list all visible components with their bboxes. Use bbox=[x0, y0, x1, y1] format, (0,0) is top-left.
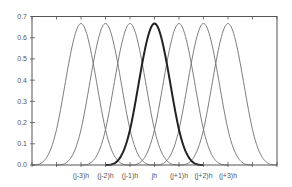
x-tick-label: (j-3)h bbox=[73, 172, 89, 180]
y-tick-label: 0.2 bbox=[17, 119, 27, 126]
x-tick-label: jh bbox=[151, 172, 158, 180]
basis-curve bbox=[155, 24, 253, 166]
x-tick-label: (j+3)h bbox=[219, 172, 237, 180]
basis-curve bbox=[130, 24, 228, 166]
basis-curve bbox=[57, 24, 155, 166]
x-tick-label: (j-2)h bbox=[97, 172, 113, 180]
x-axis-ticks: (j-3)h(j-2)h(j-1)hjh(j+1)h(j+2)h(j+3)h bbox=[32, 17, 277, 181]
x-tick-label: (j+2)h bbox=[194, 172, 212, 180]
axes-group bbox=[32, 17, 277, 166]
curves-group bbox=[32, 24, 277, 166]
basis-curve bbox=[81, 24, 179, 166]
y-tick-label: 0.5 bbox=[17, 55, 27, 62]
x-tick-label: (j+1)h bbox=[170, 172, 188, 180]
y-tick-label: 0.0 bbox=[17, 161, 27, 168]
x-tick-label: (j-1)h bbox=[122, 172, 138, 180]
basis-function-chart: 0.00.10.20.30.40.50.60.7 (j-3)h(j-2)h(j-… bbox=[0, 0, 292, 187]
plot-frame bbox=[32, 17, 277, 166]
y-tick-label: 0.7 bbox=[17, 13, 27, 20]
basis-curve bbox=[32, 24, 130, 166]
y-tick-label: 0.3 bbox=[17, 98, 27, 105]
bold-basis-curve bbox=[106, 24, 204, 166]
y-tick-label: 0.1 bbox=[17, 140, 27, 147]
basis-curve bbox=[179, 24, 277, 166]
y-tick-label: 0.6 bbox=[17, 34, 27, 41]
y-tick-label: 0.4 bbox=[17, 77, 27, 84]
